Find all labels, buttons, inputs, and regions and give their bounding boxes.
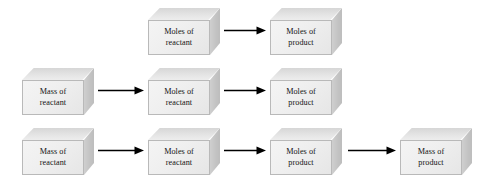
flow-arrow	[98, 146, 144, 155]
box-label-line-2: reactant	[40, 158, 66, 169]
box-label-line-1: Moles of	[164, 147, 194, 158]
box-front-face: Moles ofproduct	[270, 140, 332, 175]
box-label-line-1: Mass of	[40, 147, 67, 158]
flow-box: Moles ofproduct	[270, 128, 342, 175]
box-front-face: Moles ofreactant	[148, 140, 210, 175]
box-top-face	[270, 128, 342, 140]
box-front-face: Mass ofproduct	[400, 140, 462, 175]
box-label-line-2: product	[288, 158, 313, 169]
flow-box: Mass ofreactant	[22, 128, 94, 175]
box-top-face	[22, 128, 94, 140]
stoichiometry-flow-diagram: Moles ofreactantMoles ofproductMass ofre…	[0, 0, 497, 177]
flow-box: Mass ofproduct	[400, 128, 472, 175]
flow-row: Mass ofreactantMoles ofreactantMoles ofp…	[0, 0, 497, 177]
box-label-line-2: product	[418, 158, 443, 169]
box-label-line-2: reactant	[166, 158, 192, 169]
box-label-line-1: Moles of	[286, 147, 316, 158]
flow-box: Moles ofreactant	[148, 128, 220, 175]
box-front-face: Mass ofreactant	[22, 140, 84, 175]
flow-arrow	[224, 146, 266, 155]
box-label-line-1: Mass of	[418, 147, 445, 158]
flow-arrow	[348, 146, 396, 155]
box-top-face	[400, 128, 472, 140]
box-top-face	[148, 128, 220, 140]
